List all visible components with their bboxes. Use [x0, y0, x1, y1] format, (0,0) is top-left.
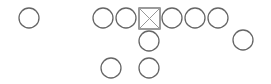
- right-guard-player-icon: [162, 8, 182, 28]
- quarterback-player-icon: [139, 31, 159, 51]
- flanker-right-player-icon: [233, 30, 253, 50]
- split-end-left-player-icon: [19, 8, 39, 28]
- tight-end-player-icon: [208, 8, 228, 28]
- right-tackle-player-icon: [185, 8, 205, 28]
- left-guard-player-icon: [116, 8, 136, 28]
- left-tackle-player-icon: [93, 8, 113, 28]
- halfback-player-icon: [101, 58, 121, 78]
- fullback-player-icon: [139, 58, 159, 78]
- formation-diagram: [0, 0, 271, 84]
- center-player-icon: [139, 8, 160, 29]
